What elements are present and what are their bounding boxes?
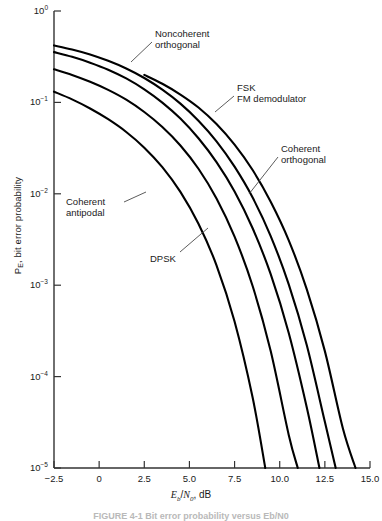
series-curve (54, 92, 265, 468)
series-curve (144, 75, 355, 468)
annotation-line: Coherent (66, 196, 105, 207)
chart-axes (54, 11, 370, 468)
series-curve (54, 69, 298, 468)
annotation-line: DPSK (150, 253, 176, 264)
annotation-leader-line (215, 96, 234, 112)
chart-series-group (54, 45, 356, 468)
annotation-noncoherent-orthogonal: Noncoherentorthogonal (155, 28, 209, 50)
figure-caption: FIGURE 4-1 Bit error probability versus … (0, 511, 382, 521)
annotation-line: orthogonal (281, 154, 326, 165)
x-tick-marks (54, 461, 370, 468)
y-tick-label: 10−5 (30, 461, 48, 473)
annotation-line: FSK (237, 82, 306, 93)
annotation-line: Noncoherent (155, 28, 209, 39)
y-tick-marks (54, 11, 61, 468)
annotation-coherent-orthogonal: Coherentorthogonal (281, 143, 326, 165)
annotation-leader-lines (124, 42, 278, 252)
annotation-dpsk: DPSK (150, 253, 176, 264)
y-axis-label: PE, bit error probability (12, 146, 23, 306)
annotation-leader-line (124, 192, 146, 202)
y-tick-label: 10−1 (30, 95, 48, 107)
annotation-coherent-antipodal: Coherentantipodal (66, 196, 105, 218)
y-tick-label: 10−3 (30, 278, 48, 290)
annotation-leader-line (180, 228, 208, 252)
y-tick-label: 10−4 (30, 370, 48, 382)
annotation-line: orthogonal (155, 39, 209, 50)
annotation-line: FM demodulator (237, 93, 306, 104)
series-curve (54, 45, 336, 468)
y-tick-label: 100 (34, 4, 48, 16)
x-axis-label: Eb/N0, dB (0, 489, 382, 503)
annotation-fsk-fm-demodulator: FSKFM demodulator (237, 82, 306, 104)
annotation-line: Coherent (281, 143, 326, 154)
annotation-line: antipodal (66, 207, 105, 218)
y-tick-label: 10−2 (30, 187, 48, 199)
x-tick-label: 15.0 (340, 473, 382, 484)
annotation-leader-line (131, 42, 152, 62)
